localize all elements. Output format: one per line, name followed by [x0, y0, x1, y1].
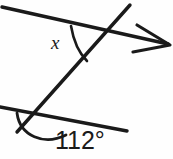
angle-label-x: x: [51, 33, 59, 52]
angle-label-112: 112°: [55, 128, 105, 153]
upper-parallel-line: [2, 7, 168, 44]
geometry-figure: x 112°: [0, 0, 173, 159]
